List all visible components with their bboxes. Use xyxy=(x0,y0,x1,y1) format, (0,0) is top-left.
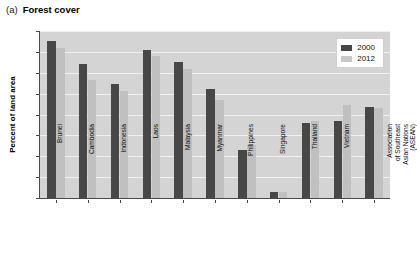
x-axis-tick-label: Brunei xyxy=(56,124,64,266)
bar-2000 xyxy=(238,150,247,198)
bar-2012 xyxy=(374,108,383,198)
legend-item: 2012 xyxy=(341,53,375,64)
y-axis-tick xyxy=(36,156,40,157)
x-axis-tick-label: Philippines xyxy=(247,124,255,266)
legend: 2000 2012 xyxy=(336,38,384,68)
y-axis-tick xyxy=(36,115,40,116)
bar-2000 xyxy=(174,62,183,198)
y-axis-label: Percent of land area xyxy=(6,31,18,198)
legend-label: 2012 xyxy=(357,55,375,63)
x-axis-tick-label: Vietnam xyxy=(343,124,351,266)
bar-2000 xyxy=(206,89,215,198)
x-axis-tick-label: Cambodia xyxy=(88,124,96,266)
x-axis-tick-label: Thailand xyxy=(311,124,319,266)
bar-2000 xyxy=(47,41,56,198)
x-axis-tick xyxy=(374,200,375,203)
y-axis-tick xyxy=(36,73,40,74)
legend-item: 2000 xyxy=(341,42,375,53)
x-axis-tick-label: Malaysia xyxy=(184,124,192,266)
legend-swatch-2012-icon xyxy=(341,56,352,62)
bar-2000 xyxy=(334,121,343,198)
x-axis-tick-label: Myanmar xyxy=(216,124,224,266)
x-axis-tick-label: Associationof SoutheastAsian Nations(ASE… xyxy=(386,124,417,266)
legend-swatch-2000-icon xyxy=(341,45,352,51)
y-axis-tick xyxy=(36,31,40,32)
x-axis-tick-labels: BruneiCambodiaIndonesiaLaosMalaysiaMyanm… xyxy=(40,200,390,266)
bar-2000 xyxy=(302,123,311,198)
y-axis-tick xyxy=(36,198,40,199)
x-axis-tick-label: Laos xyxy=(152,124,160,266)
panel-tag: (a) xyxy=(6,4,18,15)
bar-2000 xyxy=(111,84,120,198)
page-title: Forest cover xyxy=(23,4,80,15)
bar-2000 xyxy=(365,107,374,198)
y-axis-tick xyxy=(36,52,40,53)
figure-title: (a) Forest cover xyxy=(6,4,80,15)
y-axis-tick xyxy=(36,135,40,136)
y-axis-tick xyxy=(36,94,40,95)
x-axis-tick-label: Indonesia xyxy=(120,124,128,266)
x-axis-tick-label: Singapore xyxy=(279,124,287,266)
bar-2000 xyxy=(143,50,152,198)
y-axis-tick xyxy=(36,177,40,178)
legend-label: 2000 xyxy=(357,44,375,52)
bar-2000 xyxy=(79,64,88,198)
